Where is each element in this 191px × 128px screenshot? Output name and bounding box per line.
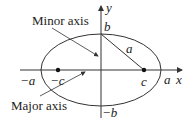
- focal-distance-label: a: [126, 41, 133, 56]
- y-axis-label: y: [104, 0, 112, 15]
- top-vertex-label: b: [104, 19, 111, 34]
- left-focus-point: [56, 68, 60, 72]
- focal-distance-line: [101, 34, 144, 70]
- bottom-vertex-label: −b: [102, 105, 118, 120]
- right-vertex-label: a: [164, 72, 171, 87]
- right-focus-point: [142, 68, 146, 72]
- right-focus-label: c: [141, 74, 147, 89]
- minor-axis-pointer-arrow: [52, 28, 98, 56]
- major-axis-label: Major axis: [11, 98, 67, 113]
- left-focus-label: −c: [50, 73, 65, 88]
- ellipse-diagram: Minor axis Major axis y x b −b −a a −c c…: [0, 0, 191, 128]
- x-axis-label: x: [175, 72, 182, 87]
- minor-axis-label: Minor axis: [32, 13, 89, 28]
- left-vertex-label: −a: [20, 73, 36, 88]
